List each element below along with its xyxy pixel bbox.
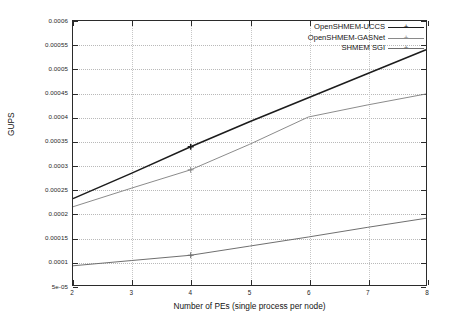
y-tick-right bbox=[421, 287, 426, 288]
x-tick-top bbox=[132, 21, 133, 26]
gridline-vertical bbox=[132, 21, 133, 285]
x-tick-top bbox=[73, 21, 74, 26]
y-tick-right bbox=[421, 190, 426, 191]
y-tick bbox=[73, 214, 78, 215]
x-tick-label: 3 bbox=[119, 289, 143, 297]
y-tick bbox=[73, 142, 78, 143]
legend-entry-1[interactable]: OpenSHMEM-GASNet+ bbox=[200, 33, 424, 44]
y-tick-label: 0.0006 bbox=[48, 17, 68, 24]
legend-plus-marker-icon: + bbox=[404, 44, 409, 52]
gridline-vertical bbox=[310, 21, 311, 285]
x-tick-label: 7 bbox=[356, 289, 380, 297]
x-tick-label: 6 bbox=[297, 289, 321, 297]
x-tick bbox=[191, 280, 192, 285]
y-tick-label: 0.00055 bbox=[45, 41, 68, 48]
plot-area bbox=[72, 20, 427, 286]
y-tick bbox=[73, 45, 78, 46]
legend-entry-0[interactable]: OpenSHMEM-UCCS+ bbox=[200, 22, 424, 33]
y-tick bbox=[73, 166, 78, 167]
x-tick-top bbox=[191, 21, 192, 26]
y-tick bbox=[73, 263, 78, 264]
x-tick bbox=[428, 280, 429, 285]
y-tick-label: 0.0001 bbox=[48, 258, 68, 265]
gups-line-chart: GUPS Number of PEs (single process per n… bbox=[0, 0, 451, 332]
legend-label: SHMEM SGI bbox=[342, 43, 385, 54]
y-tick-right bbox=[421, 239, 426, 240]
legend-label: OpenSHMEM-GASNet bbox=[308, 33, 385, 44]
y-axis-title: GUPS bbox=[6, 112, 16, 136]
series-line-2 bbox=[73, 218, 426, 266]
y-tick-label: 0.00035 bbox=[45, 137, 68, 144]
legend-plus-marker-icon: + bbox=[404, 34, 409, 42]
gridline-horizontal bbox=[73, 214, 426, 215]
x-tick-label: 8 bbox=[415, 289, 439, 297]
gridline-vertical bbox=[251, 21, 252, 285]
legend-line-sample: + bbox=[388, 22, 424, 32]
y-tick-right bbox=[421, 214, 426, 215]
y-tick-right bbox=[421, 263, 426, 264]
x-tick bbox=[251, 280, 252, 285]
legend-line-sample: + bbox=[388, 43, 424, 53]
x-tick bbox=[132, 280, 133, 285]
y-tick-right bbox=[421, 166, 426, 167]
y-tick-label: 0.00025 bbox=[45, 186, 68, 193]
y-tick-label: 0.0005 bbox=[48, 65, 68, 72]
y-tick-label: 0.0003 bbox=[48, 162, 68, 169]
x-tick-label: 4 bbox=[178, 289, 202, 297]
gridline-horizontal bbox=[73, 190, 426, 191]
x-axis-title: Number of PEs (single process per node) bbox=[72, 301, 427, 311]
gridline-horizontal bbox=[73, 94, 426, 95]
x-tick-label: 5 bbox=[238, 289, 262, 297]
x-tick bbox=[73, 280, 74, 285]
series-line-0 bbox=[73, 50, 426, 199]
y-tick bbox=[73, 69, 78, 70]
x-tick-top bbox=[428, 21, 429, 26]
y-tick-label: 0.0004 bbox=[48, 113, 68, 120]
gridline-horizontal bbox=[73, 142, 426, 143]
gridline-horizontal bbox=[73, 69, 426, 70]
gridline-vertical bbox=[191, 21, 192, 285]
legend-label: OpenSHMEM-UCCS bbox=[314, 22, 385, 33]
y-tick-right bbox=[421, 142, 426, 143]
gridline-horizontal bbox=[73, 118, 426, 119]
y-tick bbox=[73, 94, 78, 95]
y-tick bbox=[73, 118, 78, 119]
y-tick bbox=[73, 287, 78, 288]
y-tick bbox=[73, 190, 78, 191]
y-tick-right bbox=[421, 69, 426, 70]
y-tick-label: 0.00045 bbox=[45, 89, 68, 96]
gridline-horizontal bbox=[73, 239, 426, 240]
y-tick-right bbox=[421, 118, 426, 119]
gridline-vertical bbox=[369, 21, 370, 285]
legend-entry-2[interactable]: SHMEM SGI+ bbox=[200, 43, 424, 54]
legend-line-sample: + bbox=[388, 33, 424, 43]
x-tick bbox=[310, 280, 311, 285]
series-lines bbox=[73, 21, 426, 285]
y-tick-label: 0.00015 bbox=[45, 234, 68, 241]
y-tick bbox=[73, 239, 78, 240]
y-tick-label: 0.0002 bbox=[48, 210, 68, 217]
y-tick-right bbox=[421, 94, 426, 95]
x-tick-label: 2 bbox=[60, 289, 84, 297]
chart-legend: OpenSHMEM-UCCS+OpenSHMEM-GASNet+SHMEM SG… bbox=[200, 22, 424, 54]
legend-plus-marker-icon: + bbox=[404, 23, 409, 31]
gridline-horizontal bbox=[73, 166, 426, 167]
gridline-horizontal bbox=[73, 263, 426, 264]
x-tick bbox=[369, 280, 370, 285]
